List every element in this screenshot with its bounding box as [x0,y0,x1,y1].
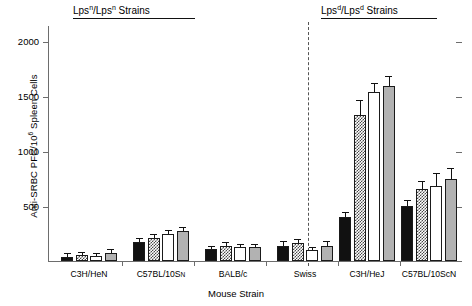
error-bar [360,101,361,115]
bar [162,234,174,261]
header-text: Lps [73,5,89,16]
x-axis-category-text: C57BL/10S [137,269,181,279]
error-bar [422,182,423,189]
bar [277,246,289,261]
error-bar-cap [64,253,71,254]
error-bar [255,245,256,248]
error-bar-cap [78,252,85,253]
bar [354,115,366,261]
error-bar [374,84,375,92]
error-bar-cap [150,234,157,235]
x-axis-tick [122,261,123,266]
x-axis-category-label: C3H/HeJ [350,269,385,279]
bar [321,246,333,261]
error-bar [111,250,112,253]
y-axis-label-tail: Spleen Cells [28,74,39,131]
x-axis-tick [266,261,267,266]
header-text-tail: Strains [364,5,398,16]
error-bar-cap [309,247,316,248]
y-axis-tick-label: 1000 [18,146,39,157]
error-bar [82,253,83,255]
error-bar [240,245,241,248]
bar [339,217,351,261]
bar [61,257,73,261]
error-bar-cap [93,253,100,254]
bar [220,246,232,261]
error-bar [345,213,346,217]
error-bar [96,254,97,256]
header-text-middle: /Lps [341,5,360,16]
error-bar-cap [385,76,392,77]
bar [445,179,457,261]
error-bar [436,174,437,186]
bar [368,92,380,261]
header-text-tail: Strains [116,5,150,16]
bar [90,256,102,261]
y-axis-tick-right [456,207,462,208]
x-axis-label: Mouse Strain [0,288,472,299]
error-bar-cap [447,168,454,169]
error-bar [283,242,284,245]
error-bar-cap [280,241,287,242]
bar [133,242,145,261]
error-bar-cap [165,230,172,231]
error-bar-cap [371,83,378,84]
y-axis-tick-label: 2000 [18,36,39,47]
bar [292,243,304,261]
y-axis-tick-label: 500 [23,201,39,212]
error-bar [389,77,390,87]
bar [430,186,442,261]
x-axis-category-label: BALB/c [219,269,248,279]
error-bar [327,242,328,245]
y-axis-tick: 1000 [43,152,49,153]
y-axis-tick-right [456,97,462,98]
error-bar-cap [323,241,330,242]
bar [249,247,261,261]
y-axis-tick: 1500 [43,97,49,98]
y-axis-label-exponent: 6 [27,132,34,136]
error-bar [298,240,299,243]
error-bar [168,231,169,234]
error-bar-cap [136,238,143,239]
x-axis-category-subscript: N [181,271,186,278]
right-group-header: Lpsd/Lpsd Strains [321,4,437,19]
bar [416,189,428,261]
error-bar-cap [342,212,349,213]
error-bar [154,235,155,238]
bar [401,206,413,261]
bar [177,231,189,261]
figure: Anti-SRBC PFC/106 Spleen Cells Mouse Str… [0,0,472,306]
plot-area: 500100015002000Lpsn/Lpsn StrainsLpsd/Lps… [48,26,462,262]
error-bar-cap [208,246,215,247]
left-group-header: Lpsn/Lpsn Strains [73,4,195,19]
error-bar [139,239,140,242]
bar [205,249,217,261]
error-bar [407,201,408,206]
group-divider [308,22,309,266]
header-underline [321,18,437,19]
header-text: Lps [321,5,337,16]
header-text-middle: /Lps [93,5,112,16]
error-bar-cap [404,200,411,201]
error-bar-cap [237,244,244,245]
y-axis-tick-right [456,152,462,153]
error-bar [226,243,227,246]
error-bar [451,169,452,179]
x-axis-category-label: C3H/HeN [71,269,108,279]
error-bar-cap [418,181,425,182]
error-bar-cap [251,244,258,245]
bar [148,238,160,261]
x-axis-tick [338,261,339,266]
error-bar [67,254,68,256]
error-bar-cap [294,239,301,240]
error-bar-cap [356,100,363,101]
error-bar [183,228,184,231]
error-bar [211,247,212,250]
x-axis-category-label: Swiss [294,269,316,279]
x-axis-category-label: C57BL/10ScN [402,269,456,279]
bar [234,247,246,261]
y-axis-tick: 500 [43,207,49,208]
bar [306,250,318,261]
bar [105,253,117,261]
x-axis-category-label: C57BL/10SN [137,269,186,279]
